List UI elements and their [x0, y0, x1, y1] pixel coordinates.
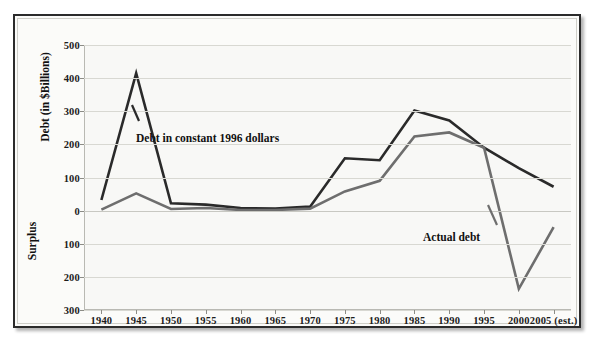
x-axis-tick [275, 310, 276, 314]
x-axis-tick-label: 1945 [125, 315, 147, 326]
annotation-actual-debt: Actual debt [423, 231, 480, 243]
chart-page: Debt (in $Billions) Surplus 500400300200… [0, 0, 594, 348]
x-axis-tick [310, 310, 311, 314]
x-axis-tick-label: 1960 [230, 315, 252, 326]
y-axis-tick-label: 0 [40, 205, 80, 216]
y-axis-tick-label: 400 [40, 73, 80, 84]
x-axis-tick-labels: 1940194519501955196019651970197519801985… [84, 315, 571, 333]
figure-frame: Debt (in $Billions) Surplus 500400300200… [13, 14, 581, 328]
y-axis-tick [80, 111, 84, 112]
y-axis-title-surplus: Surplus [26, 201, 38, 281]
x-axis-tick-label: 2005 (est.) [530, 315, 578, 326]
x-axis-tick-label: 2000 [508, 315, 530, 326]
x-axis-tick [345, 310, 346, 314]
x-axis-tick-label: 1965 [264, 315, 286, 326]
x-axis-tick [484, 310, 485, 314]
y-axis-tick-label: 500 [40, 40, 80, 51]
x-axis-tick-label: 1985 [404, 315, 426, 326]
y-axis-tick [80, 45, 84, 46]
x-axis-tick [136, 310, 137, 314]
y-axis-tick-label: 300 [40, 106, 80, 117]
gridline [84, 244, 571, 245]
y-axis-tick [80, 211, 84, 212]
y-axis-tick [80, 178, 84, 179]
y-axis-tick [80, 244, 84, 245]
y-axis-tick [80, 277, 84, 278]
y-axis-tick-label: 200 [40, 139, 80, 150]
y-axis-tick [80, 144, 84, 145]
x-axis-tick [380, 310, 381, 314]
x-axis-tick-label: 1940 [90, 315, 112, 326]
figure-inner: Debt (in $Billions) Surplus 500400300200… [17, 18, 577, 324]
x-axis-tick [206, 310, 207, 314]
x-axis-tick-label: 1980 [369, 315, 391, 326]
gridline [84, 178, 571, 179]
x-axis-tick [449, 310, 450, 314]
x-axis-tick [554, 310, 555, 314]
y-axis-tick-label: 100 [40, 238, 80, 249]
x-axis-tick [101, 310, 102, 314]
x-axis-tick-label: 1950 [160, 315, 182, 326]
y-axis-tick-label: 200 [40, 271, 80, 282]
gridline [84, 111, 571, 112]
y-axis-tick-labels: 5004003002001000100200300 [38, 45, 80, 310]
y-axis-tick [80, 310, 84, 311]
y-axis-tick-label: 300 [40, 305, 80, 316]
x-axis-tick [241, 310, 242, 314]
x-axis-tick [414, 310, 415, 314]
gridline [84, 78, 571, 79]
gridline [84, 277, 571, 278]
gridline [84, 144, 571, 145]
y-axis-tick-label: 100 [40, 172, 80, 183]
x-axis-tick-label: 1995 [473, 315, 495, 326]
x-axis-tick [171, 310, 172, 314]
x-axis-tick-label: 1975 [334, 315, 356, 326]
x-axis-tick [519, 310, 520, 314]
x-axis-tick-label: 1970 [299, 315, 321, 326]
annotation-debt-constant-1996: Debt in constant 1996 dollars [136, 132, 279, 144]
x-axis-tick-label: 1990 [438, 315, 460, 326]
gridline [84, 211, 571, 212]
x-axis-tick-label: 1955 [195, 315, 217, 326]
gridline [84, 310, 571, 311]
plot-area [84, 45, 571, 310]
gridline [84, 45, 571, 46]
y-axis-tick [80, 78, 84, 79]
